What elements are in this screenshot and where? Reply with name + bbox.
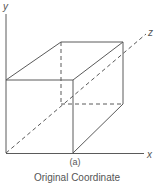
cube-top-left-depth-edge	[6, 42, 61, 80]
y-axis-label: y	[2, 1, 9, 12]
cube-bottom-right-depth-edge	[73, 104, 123, 153]
figure-sub-label: (a)	[0, 156, 150, 168]
cube-coordinate-diagram: y z x (a) Original Coordinate	[0, 0, 158, 186]
z-axis-label: z	[147, 27, 153, 38]
figure-caption: Original Coordinate	[0, 171, 154, 184]
z-axis	[6, 34, 146, 153]
